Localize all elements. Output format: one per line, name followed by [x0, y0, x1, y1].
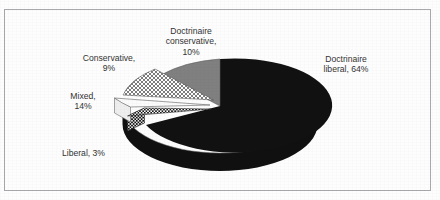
- slice-label-mixed: Mixed, 14%: [52, 91, 114, 112]
- slice-label-doctrinaire-conservative: Doctrinaire conservative, 10%: [146, 26, 236, 57]
- chart-screenshot: SUPERZIPS SURROUNDING THE BIG FOUR: [0, 0, 440, 200]
- slice-label-liberal: Liberal, 3%: [62, 148, 142, 158]
- slice-label-doctrinaire-liberal: Doctrinaire liberal, 64%: [300, 54, 392, 75]
- page-title: SUPERZIPS SURROUNDING THE BIG FOUR: [0, 0, 440, 1]
- slice-mixed: [115, 98, 211, 107]
- slice-label-conservative: Conservative, 9%: [70, 53, 148, 74]
